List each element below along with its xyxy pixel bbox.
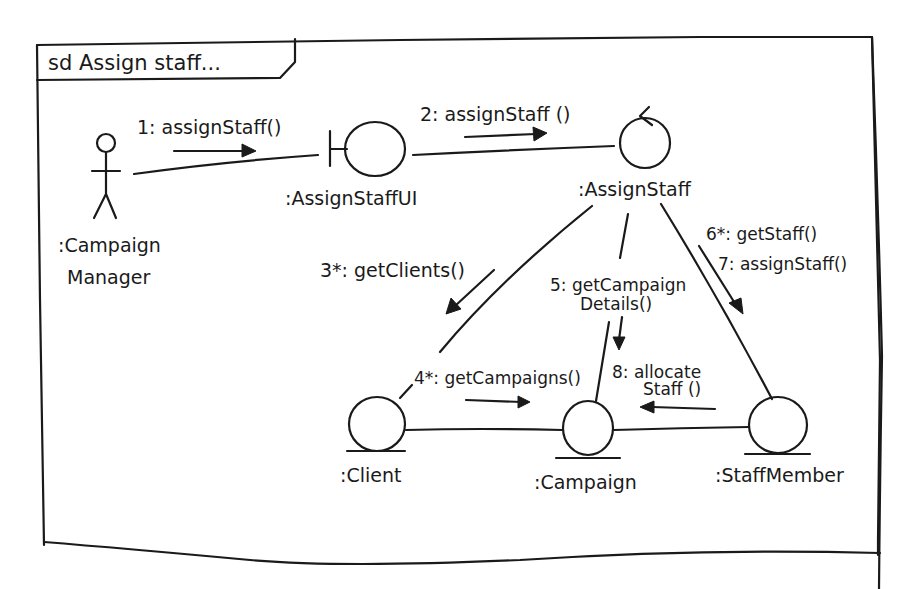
link-actor-boundary (134, 155, 318, 174)
entity-client[interactable]: :Client (340, 397, 405, 486)
control-label: :AssignStaff (578, 178, 692, 200)
link-control-campaign-upper (620, 214, 628, 258)
communication-diagram: sd Assign staff... :Campaign Manager :As… (0, 0, 915, 589)
entity-campaign-circle-icon (563, 401, 613, 455)
entity-staffmember-circle-icon (749, 397, 807, 453)
boundary-label: :AssignStaffUI (285, 187, 417, 209)
message-8-arrow-icon (652, 407, 715, 409)
boundary-circle-icon (345, 122, 405, 176)
message-4-arrowhead-icon (518, 396, 530, 408)
entity-client-circle-icon (349, 397, 405, 451)
actor-campaign-manager[interactable]: :Campaign Manager (58, 134, 161, 288)
boundary-assign-staff-ui[interactable]: :AssignStaffUI (285, 122, 417, 209)
message-6-7: 6*: getStaff() 7: assignStaff() (699, 224, 847, 314)
control-arrowhead-icon (640, 107, 652, 125)
link-control-campaign-lower (596, 322, 609, 401)
message-1-label: 1: assignStaff() (137, 116, 281, 138)
message-2: 2: assignStaff () (420, 103, 570, 141)
link-campaign-staffmember (614, 427, 749, 430)
message-4-label: 4*: getCampaigns() (414, 368, 581, 388)
actor-label-line1: :Campaign (58, 234, 161, 256)
control-assign-staff[interactable]: :AssignStaff (578, 107, 692, 200)
link-control-client-lower (400, 385, 412, 398)
message-6-arrowhead-icon (729, 298, 743, 314)
entity-client-label: :Client (340, 464, 401, 486)
actor-label-line2: Manager (67, 266, 150, 288)
message-6-label: 6*: getStaff() (706, 224, 817, 244)
link-client-campaign (406, 429, 562, 430)
frame-title: sd Assign staff... (48, 51, 221, 75)
message-5-label-line2: Details() (580, 294, 652, 314)
message-1-arrowhead-icon (242, 144, 256, 157)
actor-head-icon (97, 134, 115, 152)
message-2-arrow-icon (465, 134, 536, 137)
message-2-label: 2: assignStaff () (420, 103, 570, 125)
entity-campaign-label: :Campaign (534, 471, 637, 493)
message-5-arrowhead-icon (613, 337, 625, 350)
entity-staffmember-label: :StaffMember (715, 464, 844, 486)
message-1: 1: assignStaff() (137, 116, 281, 157)
message-8-label-line2: Staff () (643, 379, 701, 399)
message-5: 5: getCampaign Details() (550, 275, 686, 350)
message-8-arrowhead-icon (640, 401, 654, 413)
message-3-label: 3*: getClients() (320, 259, 465, 281)
entity-campaign[interactable]: :Campaign (534, 401, 637, 493)
actor-body-icon (92, 152, 120, 218)
control-circle-icon (620, 118, 670, 168)
message-8: 8: allocate Staff () (612, 362, 715, 413)
message-5-label-line1: 5: getCampaign (550, 275, 686, 295)
entity-staff-member[interactable]: :StaffMember (715, 397, 844, 486)
message-4: 4*: getCampaigns() (414, 368, 581, 408)
message-7-label: 7: assignStaff() (718, 254, 847, 274)
link-boundary-control (413, 146, 614, 155)
message-2-arrowhead-icon (533, 127, 547, 141)
message-4-arrow-icon (466, 400, 522, 402)
message-3: 3*: getClients() (320, 259, 494, 314)
message-3-arrowhead-icon (446, 298, 461, 314)
